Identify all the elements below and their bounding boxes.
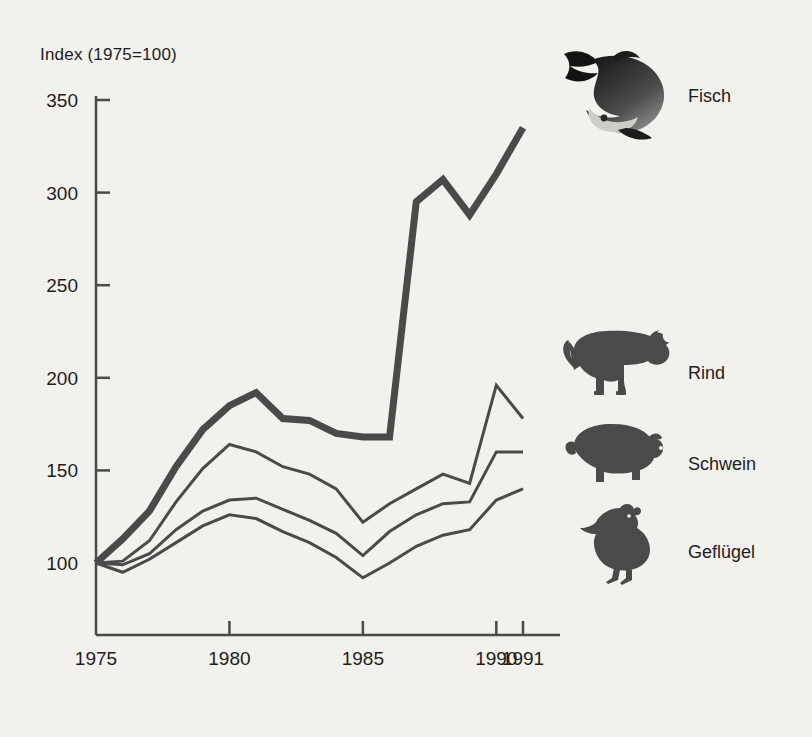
x-tick-label: 1991 (502, 648, 544, 669)
data-series-group (96, 128, 523, 578)
y-tick-label: 350 (46, 90, 78, 111)
legend-entry-rind: Rind (540, 318, 800, 408)
pig-icon (560, 418, 670, 492)
chart-figure: Index (1975=100) 100150200250300350 1975… (0, 0, 812, 737)
legend-entry-fisch: Fisch (548, 42, 798, 152)
y-tick-label: 300 (46, 183, 78, 204)
legend-label-fisch: Fisch (688, 86, 731, 107)
legend-label-rind: Rind (688, 363, 725, 384)
y-tick-label: 100 (46, 553, 78, 574)
series-line-rind (96, 385, 523, 563)
legend-label-gefluegel: Geflügel (688, 542, 755, 563)
y-tick-label: 150 (46, 460, 78, 481)
x-tick-label: 1980 (208, 648, 250, 669)
bull-icon (554, 318, 679, 407)
legend-entry-gefluegel: Geflügel (540, 500, 800, 590)
y-tick-group: 100150200250300350 (46, 90, 110, 574)
fish-icon (556, 42, 686, 151)
y-tick-label: 250 (46, 275, 78, 296)
series-line-fisch (96, 128, 523, 563)
x-tick-label: 1975 (75, 648, 117, 669)
x-tick-group: 19751980198519901991 (75, 621, 544, 669)
legend-label-schwein: Schwein (688, 454, 756, 475)
legend-entry-schwein: Schwein (540, 418, 800, 498)
x-tick-label: 1985 (342, 648, 384, 669)
y-tick-label: 200 (46, 368, 78, 389)
chicken-icon (574, 500, 664, 589)
series-line-schwein (96, 452, 523, 565)
